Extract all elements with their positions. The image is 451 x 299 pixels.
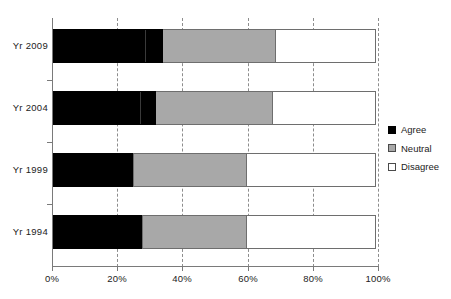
x-axis-label-20: 20% [97, 273, 137, 284]
x-axis-label-60: 60% [228, 273, 268, 284]
bar-segment-disagree-1994[interactable] [246, 215, 376, 249]
legend-item-disagree[interactable]: Disagree [388, 162, 439, 172]
bar-segment-disagree-2004[interactable] [272, 91, 376, 125]
bar-segment-neutral-1999[interactable] [133, 153, 247, 187]
x-axis-tick-40 [182, 266, 183, 271]
legend-item-neutral[interactable]: Neutral [388, 144, 439, 154]
x-axis-tick-80 [313, 266, 314, 271]
bar-row-yr-1999[interactable] [52, 153, 378, 187]
y-axis-label-text: Yr 1994 [2, 215, 48, 249]
bar-row-yr-2004[interactable] [52, 91, 378, 125]
y-axis-tick-3 [47, 204, 52, 205]
y-axis-label-yr-2009: Yr 2009 [0, 29, 48, 63]
legend-label-agree: Agree [401, 125, 426, 135]
x-axis-tick-100 [378, 266, 379, 271]
bar-segment-disagree-2009[interactable] [275, 29, 376, 63]
y-axis-label-text: Yr 2009 [2, 29, 48, 63]
y-axis-label-yr-2004: Yr 2004 [0, 91, 48, 125]
bar-row-yr-2009[interactable] [52, 29, 378, 63]
bar-segment-neutral-1994[interactable] [142, 215, 246, 249]
bar-row-yr-1994[interactable] [52, 215, 378, 249]
bar-segment-agree-1994[interactable] [52, 215, 143, 249]
bar-segment-agree-1999[interactable] [52, 153, 134, 187]
y-axis-line [52, 18, 53, 267]
y-axis-label-yr-1994: Yr 1994 [0, 215, 48, 249]
bar-segment-agree-2004[interactable] [52, 91, 156, 125]
y-axis-label-yr-1999: Yr 1999 [0, 153, 48, 187]
x-axis-label-80: 80% [293, 273, 333, 284]
white-swatch-icon [388, 163, 396, 171]
bar-segment-neutral-2004[interactable] [155, 91, 272, 125]
x-axis-label-0: 0% [32, 273, 72, 284]
x-axis-tick-0 [52, 266, 53, 271]
stacked-bar-chart: Yr 2009 Yr 2004 Yr 1999 Yr 1994 0% 20% 4… [0, 0, 451, 299]
plot-area [52, 18, 378, 267]
x-axis-line [52, 266, 379, 267]
y-axis-label-text: Yr 2004 [2, 91, 48, 125]
x-axis-label-40: 40% [162, 273, 202, 284]
bar-segment-neutral-2009[interactable] [162, 29, 276, 63]
legend-label-disagree: Disagree [401, 162, 439, 172]
chart-legend: Agree Neutral Disagree [388, 125, 439, 181]
y-axis-tick-2 [47, 142, 52, 143]
y-axis-label-text: Yr 1999 [2, 153, 48, 187]
legend-label-neutral: Neutral [401, 144, 432, 154]
gridline-100 [378, 18, 379, 267]
bar-segment-disagree-1999[interactable] [246, 153, 376, 187]
x-axis-label-100: 100% [358, 273, 398, 284]
y-axis-tick-1 [47, 80, 52, 81]
gray-swatch-icon [388, 144, 396, 152]
black-swatch-icon [388, 126, 396, 134]
x-axis-tick-60 [248, 266, 249, 271]
legend-item-agree[interactable]: Agree [388, 125, 439, 135]
bar-segment-agree-2009[interactable] [52, 29, 163, 63]
x-axis-tick-20 [117, 266, 118, 271]
